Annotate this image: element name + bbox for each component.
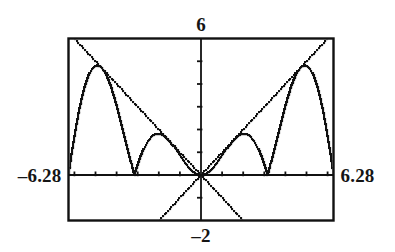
xmin-label: –6.28: [17, 165, 62, 186]
ymin-label: –2: [190, 225, 210, 246]
calculator-screen: 6 –6.28 6.28 –2: [0, 0, 395, 252]
xmax-label: 6.28: [341, 165, 375, 186]
graph-plot: 6 –6.28 6.28 –2: [0, 0, 395, 252]
ymax-label: 6: [196, 14, 206, 35]
